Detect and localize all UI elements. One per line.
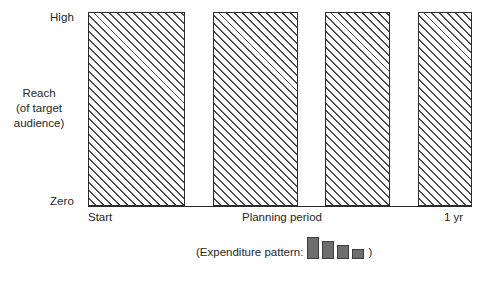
y-axis-title: Reach (of target audience) [0,86,78,131]
y-axis-title-line-1: Reach [0,86,78,101]
expenditure-swatch-2 [322,241,334,259]
legend-open-label: (Expenditure pattern: [196,244,303,262]
expenditure-swatch-3 [337,245,349,259]
bar-burst-4 [418,12,472,206]
x-axis-label-start: Start [88,211,112,223]
bar-burst-3 [325,12,390,206]
expenditure-swatch-1 [307,237,319,259]
bar-burst-1 [88,12,185,206]
bar-burst-2 [213,12,298,206]
x-axis-title: Planning period [242,211,322,223]
legend-swatch-group [303,237,367,262]
legend-close-label: ) [367,244,372,262]
figure-caption [2,271,482,281]
y-axis-tick-high: High [50,11,74,23]
y-axis-title-line-2: (of target [0,101,78,116]
y-axis-title-line-3: audience) [0,116,78,131]
x-axis-line [88,206,472,207]
y-axis-tick-zero: Zero [50,195,74,207]
expenditure-swatch-4 [352,249,364,259]
reach-vs-planning-period-chart: High Zero Reach (of target audience) Sta… [0,0,487,281]
expenditure-pattern-legend: (Expenditure pattern: ) [196,238,372,262]
x-axis-label-end: 1 yr [444,211,463,223]
plot-area [88,12,472,206]
